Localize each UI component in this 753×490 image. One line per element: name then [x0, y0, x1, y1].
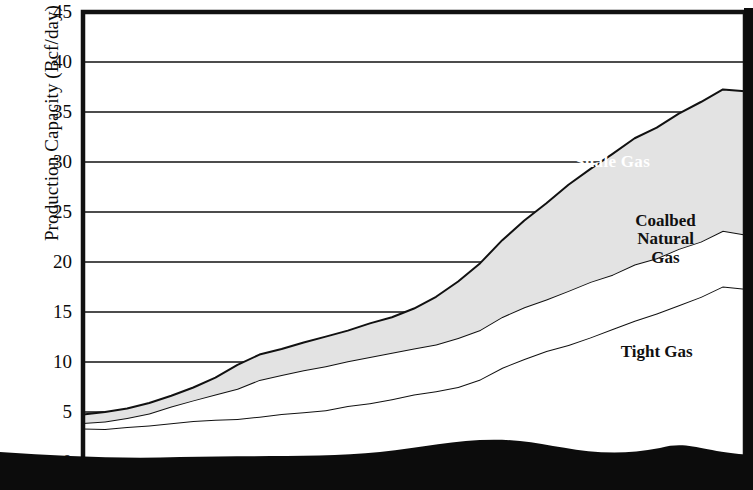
chart-figure: Production Capacity (Bcf/day) 0510152025…: [0, 0, 753, 490]
scan-edge-artifact-right: [744, 8, 753, 478]
plot-area: [0, 0, 753, 490]
